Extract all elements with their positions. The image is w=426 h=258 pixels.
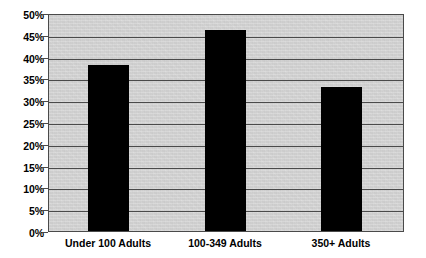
bar-chart: 50% 45% 40% 35% 30% 25% 20% 15% 10% 5% 0… [0, 0, 426, 258]
bar-under-100-adults [88, 65, 129, 231]
y-tick-label: 20% [4, 141, 44, 152]
y-tick-label: 15% [4, 163, 44, 174]
bar-100-349-adults [205, 30, 246, 231]
y-tick-label: 0% [4, 228, 44, 239]
bar-350-plus-adults [321, 87, 362, 231]
y-tick-mark [42, 232, 48, 233]
y-tick-label: 25% [4, 119, 44, 130]
y-tick-label: 40% [4, 54, 44, 65]
y-tick-label: 30% [4, 97, 44, 108]
y-tick-label: 50% [4, 10, 44, 21]
y-tick-label: 5% [4, 206, 44, 217]
y-tick-label: 45% [4, 32, 44, 43]
plot-area [48, 14, 404, 232]
y-axis: 50% 45% 40% 35% 30% 25% 20% 15% 10% 5% 0… [0, 14, 44, 232]
y-tick-label: 35% [4, 75, 44, 86]
y-tick-label: 10% [4, 184, 44, 195]
x-tick-label-350-plus-adults: 350+ Adults [261, 238, 421, 249]
